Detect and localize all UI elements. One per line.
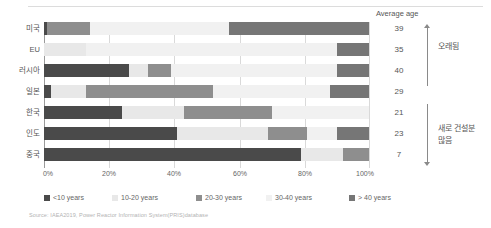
bar-segment (337, 127, 370, 140)
bar-segment (229, 22, 369, 35)
bar-segment (129, 64, 149, 77)
annotation-newbuild-label-1: 새로 건설분 (438, 124, 475, 134)
average-age-value: 40 (376, 64, 422, 77)
bar-segment (86, 85, 213, 98)
chart-figure: 미국 EU 러시아 일본 한국 인도 중국 0% 20% 40% 60% 80%… (0, 0, 491, 228)
average-age-value: 39 (376, 22, 422, 35)
x-axis-tick-label: 80% (298, 170, 312, 177)
bar-segment (343, 148, 369, 161)
legend-item[interactable]: <10 years (44, 194, 84, 201)
legend-swatch-icon (44, 195, 50, 201)
legend-swatch-icon (266, 195, 272, 201)
legend-item[interactable]: 30-40 years (266, 194, 312, 201)
bar-segment (268, 127, 307, 140)
annotation-older-label: 오래됨 (438, 42, 459, 52)
plot-area (44, 22, 370, 168)
legend-swatch-icon (349, 195, 355, 201)
average-age-value: 29 (376, 85, 422, 98)
annotation-newbuild-label-2: 많음 (438, 136, 452, 146)
bar-segment (301, 148, 343, 161)
bar-segment (86, 43, 336, 56)
bar-segment (307, 127, 336, 140)
y-axis-tick-label: 일본 (0, 85, 40, 98)
average-age-column: 39 35 40 29 21 23 7 (376, 22, 422, 168)
annotation-line (427, 104, 428, 162)
bar-row (44, 148, 370, 161)
legend-label: 10-20 years (121, 194, 158, 201)
bar-row (44, 64, 370, 77)
bar-segment (337, 64, 370, 77)
bar-segment (122, 106, 184, 119)
bar-segment (44, 148, 301, 161)
y-axis-tick-label: EU (0, 43, 40, 56)
legend-item[interactable]: 20-30 years (196, 194, 242, 201)
x-axis-labels: 0% 20% 40% 60% 80% 100% (44, 170, 370, 182)
legend-item[interactable]: > 40 years (349, 194, 391, 201)
average-age-value: 21 (376, 106, 422, 119)
bar-segment (47, 22, 89, 35)
y-axis-tick-label: 미국 (0, 22, 40, 35)
bar-row (44, 85, 370, 98)
top-divider (28, 6, 483, 7)
y-axis-tick-label: 인도 (0, 127, 40, 140)
y-axis-tick-label: 중국 (0, 148, 40, 161)
arrow-down-icon (424, 162, 430, 166)
bar-segment (44, 127, 177, 140)
bar-segment (184, 106, 272, 119)
legend-label: 20-30 years (205, 194, 242, 201)
legend-item[interactable]: 10-20 years (112, 194, 158, 201)
bar-row (44, 22, 370, 35)
bar-segment (330, 85, 369, 98)
bar-segment (90, 22, 230, 35)
bar-row (44, 43, 370, 56)
bar-segment (171, 64, 337, 77)
x-axis-tick-label: 100% (356, 170, 374, 177)
source-note: Source: IAEA2019, Power Reactor Informat… (29, 212, 208, 218)
y-axis-tick-label: 러시아 (0, 64, 40, 77)
bar-segment (44, 64, 129, 77)
legend-swatch-icon (196, 195, 202, 201)
average-age-header: Average age (376, 9, 418, 18)
bar-row (44, 127, 370, 140)
bar-segment (177, 127, 268, 140)
bar-row (44, 106, 370, 119)
bar-segment (337, 43, 370, 56)
bar-segment (44, 43, 86, 56)
legend-label: > 40 years (358, 194, 391, 201)
bar-segment (51, 85, 87, 98)
chart-legend: <10 years10-20 years20-30 years30-40 yea… (44, 194, 464, 206)
average-age-value: 7 (376, 148, 422, 161)
y-axis-labels: 미국 EU 러시아 일본 한국 인도 중국 (0, 22, 40, 168)
bar-segment (272, 106, 370, 119)
bar-segment (148, 64, 171, 77)
legend-label: 30-40 years (275, 194, 312, 201)
x-axis-tick-label: 0% (43, 170, 53, 177)
bar-segment (44, 106, 122, 119)
x-axis-tick-label: 60% (233, 170, 247, 177)
bar-series-container (44, 22, 370, 168)
x-axis-tick-label: 20% (102, 170, 116, 177)
average-age-value: 35 (376, 43, 422, 56)
legend-label: <10 years (53, 194, 84, 201)
y-axis-tick-label: 한국 (0, 106, 40, 119)
annotation-line (427, 28, 428, 86)
x-axis-tick-label: 40% (167, 170, 181, 177)
average-age-value: 23 (376, 127, 422, 140)
legend-swatch-icon (112, 195, 118, 201)
bar-segment (213, 85, 330, 98)
